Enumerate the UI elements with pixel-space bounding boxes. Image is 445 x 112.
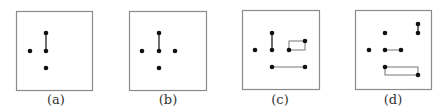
graph-node	[44, 31, 49, 36]
graph-node	[44, 49, 49, 54]
graph-node	[287, 48, 292, 53]
rect-edge	[289, 41, 305, 50]
graph-node	[383, 31, 388, 36]
panel-label-a: (a)	[47, 92, 65, 107]
panel-label-b: (b)	[159, 92, 177, 107]
graph-node	[44, 66, 49, 71]
graph-node	[270, 31, 275, 36]
rect-edge	[385, 67, 418, 75]
graph-node	[383, 48, 388, 53]
graph-node	[416, 31, 421, 36]
panel-label-c: (c)	[271, 92, 288, 107]
panel-label-d: (d)	[384, 92, 402, 107]
graph-node	[399, 48, 404, 53]
graph-node	[303, 65, 308, 70]
panel-b	[130, 12, 207, 91]
diagram-canvas	[0, 0, 445, 112]
graph-node	[416, 73, 421, 78]
graph-node	[157, 31, 162, 36]
graph-node	[270, 48, 275, 53]
panel-a	[17, 12, 93, 91]
graph-node	[303, 39, 308, 44]
graph-node	[140, 49, 145, 54]
graph-node	[28, 49, 33, 54]
graph-node	[270, 65, 275, 70]
graph-node	[367, 48, 372, 53]
graph-node	[157, 66, 162, 71]
graph-node	[416, 22, 421, 27]
panel-d	[356, 11, 432, 90]
graph-node	[383, 65, 388, 70]
graph-node	[173, 49, 178, 54]
graph-node	[253, 48, 258, 53]
graph-node	[157, 49, 162, 54]
panel-c	[243, 11, 320, 90]
